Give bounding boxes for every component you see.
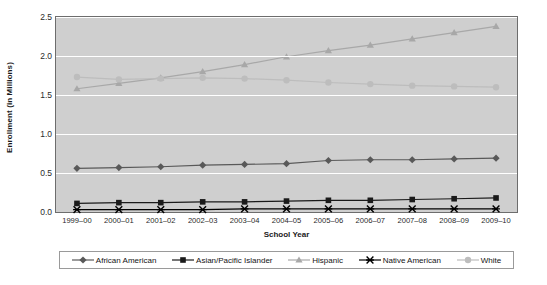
legend-label: White <box>481 256 501 265</box>
data-point <box>241 205 249 212</box>
data-point <box>368 198 374 204</box>
x-axis-tick: 2003–04 <box>230 216 260 225</box>
legend-label: Hispanic <box>312 256 343 265</box>
data-point <box>492 155 499 162</box>
data-point <box>451 155 458 162</box>
gridline <box>56 56 517 57</box>
data-point <box>326 198 332 204</box>
series-layer <box>56 17 517 212</box>
y-axis-tick: 0.0 <box>26 207 52 217</box>
legend-marker-cross-icon <box>359 255 381 265</box>
x-axis-tick: 2001–02 <box>146 216 176 225</box>
data-point <box>115 206 123 213</box>
gridline <box>56 17 517 18</box>
x-axis-tick: 2002–03 <box>188 216 218 225</box>
legend-label: African American <box>96 256 156 265</box>
y-axis-tick: 1.5 <box>26 90 52 100</box>
data-point <box>199 206 207 213</box>
data-point <box>116 76 122 82</box>
y-axis-tick: 0.5 <box>26 168 52 178</box>
x-axis-tick: 2009–10 <box>481 216 511 225</box>
data-point <box>157 163 164 170</box>
data-point <box>492 23 499 29</box>
x-axis-title: School Year <box>55 230 518 239</box>
data-point <box>325 157 332 164</box>
data-point <box>157 206 165 213</box>
x-axis-tick: 2007–08 <box>397 216 427 225</box>
legend-item-hispanic[interactable]: Hispanic <box>288 255 343 265</box>
x-axis-tick: 2005–06 <box>314 216 344 225</box>
series-african-american <box>73 155 499 172</box>
data-point <box>283 205 291 212</box>
data-point <box>367 81 373 87</box>
data-point <box>283 160 290 167</box>
series-asian-pacific-islander <box>74 195 499 206</box>
data-point <box>409 197 415 203</box>
data-point <box>158 75 164 81</box>
data-point <box>325 205 333 212</box>
x-axis-tick: 2004–05 <box>272 216 302 225</box>
gridline <box>56 134 517 135</box>
x-axis-tick: 1999–00 <box>62 216 92 225</box>
series-native-american <box>73 205 500 213</box>
plot-area <box>55 16 518 213</box>
x-axis-tick: 2006–07 <box>356 216 386 225</box>
data-point <box>367 156 374 163</box>
legend-label: Native American <box>383 256 441 265</box>
y-axis-tick-labels: 0.00.51.01.52.02.5 <box>20 0 52 285</box>
data-point <box>366 205 374 212</box>
y-axis-tick: 1.0 <box>26 129 52 139</box>
legend-marker-diamond-icon <box>72 255 94 265</box>
chart-figure: Enrollment (in Millions) 0.00.51.01.52.0… <box>0 0 547 285</box>
x-axis-tick-labels: 1999–002000–012001–022002–032003–042004–… <box>55 216 518 230</box>
data-point <box>450 205 458 212</box>
legend-marker-square-icon <box>172 255 194 265</box>
data-point <box>241 161 248 168</box>
data-point <box>158 200 164 206</box>
gridline <box>56 173 517 174</box>
legend-label: Asian/Pacific Islander <box>196 256 272 265</box>
data-point <box>74 74 80 80</box>
data-point <box>493 84 499 90</box>
series-white <box>74 74 499 91</box>
data-point <box>284 198 290 204</box>
legend-item-african-american[interactable]: African American <box>72 255 156 265</box>
legend-marker-circle-icon <box>457 255 479 265</box>
chart-legend: African AmericanAsian/Pacific IslanderHi… <box>59 251 514 269</box>
legend-item-native-american[interactable]: Native American <box>359 255 441 265</box>
data-point <box>116 200 122 206</box>
data-point <box>451 196 457 202</box>
data-point <box>241 75 247 81</box>
legend-item-white[interactable]: White <box>457 255 501 265</box>
y-axis-tick: 2.0 <box>26 51 52 61</box>
data-point <box>200 199 206 205</box>
data-point <box>73 206 81 213</box>
data-point <box>242 199 248 205</box>
gridline <box>56 95 517 96</box>
data-point <box>199 162 206 169</box>
data-point <box>408 205 416 212</box>
data-point <box>325 79 331 85</box>
data-point <box>493 195 499 201</box>
x-axis-tick: 2000–01 <box>104 216 134 225</box>
y-axis-tick: 2.5 <box>26 12 52 22</box>
data-point <box>409 82 415 88</box>
data-point <box>492 205 500 212</box>
legend-marker-triangle-icon <box>288 255 310 265</box>
x-axis-tick: 2008–09 <box>439 216 469 225</box>
data-point <box>409 156 416 163</box>
y-axis-title-text: Enrollment (in Millions) <box>5 62 14 153</box>
data-point <box>283 77 289 83</box>
data-point <box>199 75 205 81</box>
data-point <box>115 164 122 171</box>
y-axis-title: Enrollment (in Millions) <box>0 0 18 215</box>
data-point <box>74 201 80 207</box>
data-point <box>451 83 457 89</box>
legend-item-asian-pacific-islander[interactable]: Asian/Pacific Islander <box>172 255 272 265</box>
data-point <box>73 165 80 172</box>
